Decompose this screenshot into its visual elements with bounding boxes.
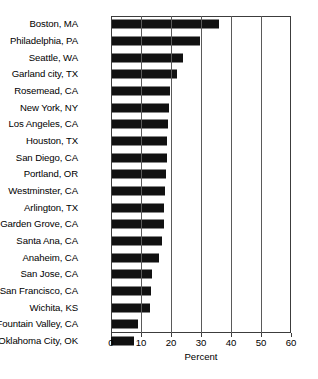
bar bbox=[111, 103, 169, 112]
bar bbox=[111, 70, 177, 79]
bar bbox=[111, 303, 150, 312]
chart-row: Fountain Valley, CA bbox=[0, 316, 291, 333]
x-axis-label: Percent bbox=[111, 351, 291, 362]
chart-row: Wichita, KS bbox=[0, 299, 291, 316]
gridline bbox=[141, 16, 142, 333]
bar bbox=[111, 53, 183, 62]
chart-row: Rosemead, CA bbox=[0, 83, 291, 100]
category-label: Portland, OR bbox=[24, 169, 78, 179]
chart-row: San Francisco, CA bbox=[0, 283, 291, 300]
bar bbox=[111, 137, 167, 146]
bar bbox=[111, 170, 166, 179]
chart-row: Anaheim, CA bbox=[0, 249, 291, 266]
x-tick-label: 60 bbox=[286, 337, 297, 348]
gridline bbox=[201, 16, 202, 333]
category-label: Santa Ana, CA bbox=[16, 236, 78, 246]
category-label: Wichita, KS bbox=[30, 303, 78, 313]
bar bbox=[111, 253, 159, 262]
x-tick-label: 0 bbox=[108, 337, 113, 348]
chart-row: Seattle, WA bbox=[0, 49, 291, 66]
category-label: San Francisco, CA bbox=[0, 286, 78, 296]
gridline bbox=[261, 16, 262, 333]
chart-row: Garland city, TX bbox=[0, 66, 291, 83]
bar bbox=[111, 237, 162, 246]
category-label: San Diego, CA bbox=[16, 153, 78, 163]
chart-row: Philadelphia, PA bbox=[0, 33, 291, 50]
gridline bbox=[231, 16, 232, 333]
bar bbox=[111, 37, 200, 46]
category-label: Philadelphia, PA bbox=[10, 36, 78, 46]
bar bbox=[111, 153, 167, 162]
bar bbox=[111, 287, 151, 296]
category-label: Arlington, TX bbox=[24, 203, 78, 213]
bar bbox=[111, 270, 152, 279]
x-tick-label: 10 bbox=[136, 337, 147, 348]
bar bbox=[111, 187, 165, 196]
chart-row: Houston, TX bbox=[0, 133, 291, 150]
bar bbox=[111, 337, 134, 346]
chart-row: Boston, MA bbox=[0, 16, 291, 33]
category-label: Houston, TX bbox=[26, 136, 78, 146]
category-label: Seattle, WA bbox=[29, 53, 78, 63]
bar bbox=[111, 320, 138, 329]
category-label: Garden Grove, CA bbox=[0, 219, 78, 229]
category-label: Los Angeles, CA bbox=[9, 119, 78, 129]
x-tick-label: 40 bbox=[226, 337, 237, 348]
category-label: Rosemead, CA bbox=[14, 86, 78, 96]
bar bbox=[111, 220, 164, 229]
chart-row: Portland, OR bbox=[0, 166, 291, 183]
category-label: Westminster, CA bbox=[8, 186, 78, 196]
chart-row: San Jose, CA bbox=[0, 266, 291, 283]
chart-row: Westminster, CA bbox=[0, 183, 291, 200]
chart-rows: Boston, MAPhiladelphia, PASeattle, WAGar… bbox=[0, 16, 291, 333]
chart-row: Arlington, TX bbox=[0, 199, 291, 216]
x-tick-label: 50 bbox=[256, 337, 267, 348]
bar-chart-figure: Boston, MAPhiladelphia, PASeattle, WAGar… bbox=[0, 0, 318, 379]
chart-row: San Diego, CA bbox=[0, 149, 291, 166]
category-label: Garland city, TX bbox=[12, 69, 78, 79]
x-tick-label: 30 bbox=[196, 337, 207, 348]
chart-row: New York, NY bbox=[0, 99, 291, 116]
chart-row: Santa Ana, CA bbox=[0, 233, 291, 250]
bar bbox=[111, 120, 168, 129]
category-label: Oklahoma City, OK bbox=[0, 336, 78, 346]
category-label: San Jose, CA bbox=[21, 269, 78, 279]
category-label: New York, NY bbox=[20, 103, 78, 113]
chart-row: Los Angeles, CA bbox=[0, 116, 291, 133]
x-tick-label: 20 bbox=[166, 337, 177, 348]
bar bbox=[111, 203, 164, 212]
category-label: Anaheim, CA bbox=[23, 253, 78, 263]
chart-row: Garden Grove, CA bbox=[0, 216, 291, 233]
category-label: Boston, MA bbox=[29, 19, 78, 29]
bar bbox=[111, 20, 219, 29]
category-label: Fountain Valley, CA bbox=[0, 319, 78, 329]
gridline bbox=[171, 16, 172, 333]
